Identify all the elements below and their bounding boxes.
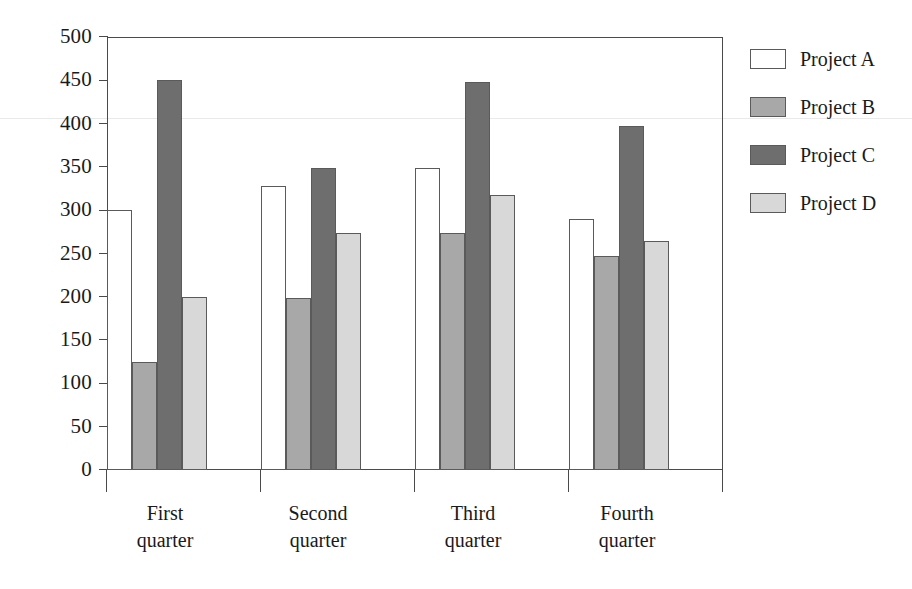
legend-item-project-b[interactable]: Project B bbox=[750, 95, 875, 119]
legend-swatch-icon bbox=[750, 49, 786, 69]
legend-swatch-icon bbox=[750, 193, 786, 213]
bar bbox=[440, 233, 465, 470]
legend-swatch-icon bbox=[750, 97, 786, 117]
bar bbox=[132, 362, 157, 470]
bar bbox=[157, 80, 182, 470]
legend-item-label: Project A bbox=[800, 49, 875, 69]
x-axis-category-label: Firstquarter bbox=[85, 500, 245, 554]
bar bbox=[107, 210, 132, 470]
x-axis-category-label-line: Third bbox=[393, 500, 553, 527]
legend-swatch-icon bbox=[750, 145, 786, 165]
legend-item-project-c[interactable]: Project C bbox=[750, 143, 875, 167]
x-axis-category-label-line: Fourth bbox=[547, 500, 707, 527]
x-axis-category-label-line: Second bbox=[238, 500, 398, 527]
x-axis-category-label: Thirdquarter bbox=[393, 500, 553, 554]
x-axis-category-label-line: First bbox=[85, 500, 245, 527]
x-axis-category-label-line: quarter bbox=[547, 527, 707, 554]
x-axis-category-label: Fourthquarter bbox=[547, 500, 707, 554]
bar bbox=[465, 82, 490, 470]
bar bbox=[594, 256, 619, 470]
legend-item-label: Project C bbox=[800, 145, 875, 165]
legend-item-project-d[interactable]: Project D bbox=[750, 191, 876, 215]
x-axis-category-label-line: quarter bbox=[85, 527, 245, 554]
bar bbox=[415, 168, 440, 470]
bar bbox=[490, 195, 515, 470]
bar bbox=[619, 126, 644, 470]
bar bbox=[286, 298, 311, 470]
bar-chart: 050100150200250300350400450500 Firstquar… bbox=[0, 0, 912, 589]
bar bbox=[644, 241, 669, 470]
bar bbox=[261, 186, 286, 470]
legend-item-label: Project D bbox=[800, 193, 876, 213]
x-axis-category-label-line: quarter bbox=[238, 527, 398, 554]
legend-item-label: Project B bbox=[800, 97, 875, 117]
bar bbox=[569, 219, 594, 470]
legend-item-project-a[interactable]: Project A bbox=[750, 47, 875, 71]
bar bbox=[336, 233, 361, 470]
x-axis-category-label-line: quarter bbox=[393, 527, 553, 554]
bar bbox=[182, 297, 207, 470]
x-axis-category-label: Secondquarter bbox=[238, 500, 398, 554]
bar bbox=[311, 168, 336, 470]
